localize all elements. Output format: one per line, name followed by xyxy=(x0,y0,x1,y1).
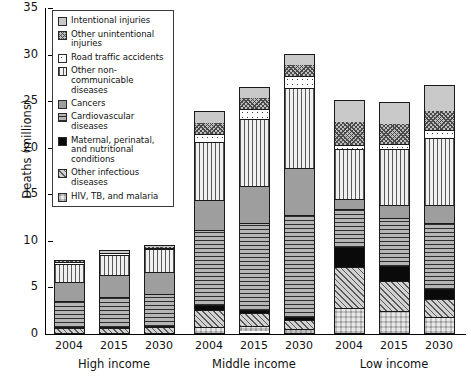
bar-segment-maternal xyxy=(425,290,454,300)
x-tick-label-year: 2015 xyxy=(372,339,416,352)
legend-item-label: Cancers xyxy=(71,99,105,109)
x-axis-group-label: Middle income xyxy=(179,357,329,371)
legend-item-cardio[interactable]: Cardiovascular diseases xyxy=(58,112,168,132)
x-tick-label-year: 2030 xyxy=(137,339,181,352)
x-tick-label-year: 2015 xyxy=(92,339,136,352)
legend-swatch-cardio-icon xyxy=(58,113,67,122)
bar-segment-otherinf xyxy=(240,314,269,327)
bar-segment-cancers xyxy=(335,200,364,210)
bar-segment-road xyxy=(195,135,224,142)
bar-segment-cardio xyxy=(380,219,409,267)
legend-swatch-road-icon xyxy=(58,54,67,63)
bar-segment-intentional xyxy=(285,55,314,65)
bar-segment-otherinf xyxy=(145,328,174,333)
bar-segment-cancers xyxy=(100,276,129,298)
y-tick-label: 0 xyxy=(16,328,38,340)
legend-swatch-noncomm-icon xyxy=(58,67,67,76)
legend-item-label: Other infectious diseases xyxy=(71,168,168,188)
bar-segment-otherinf xyxy=(55,329,84,333)
legend-item-label: HIV, TB, and malaria xyxy=(71,192,158,202)
bar-segment-noncomm xyxy=(335,150,364,200)
bar-segment-hiv xyxy=(240,327,269,331)
y-tick-label: 35 xyxy=(16,2,38,14)
bar-segment-noncomm xyxy=(285,89,314,169)
legend-item-noncomm[interactable]: Other non-communicable diseases xyxy=(58,66,168,95)
bar-segment-cancers xyxy=(145,273,174,295)
x-tick-label-year: 2004 xyxy=(327,339,371,352)
y-tick-label: 15 xyxy=(16,189,38,201)
chart-legend: Intentional injuriesOther unintentional … xyxy=(52,10,174,207)
bar-segment-road xyxy=(425,131,454,139)
bar-segment-cancers xyxy=(380,206,409,219)
legend-item-label: Maternal, perinatal, and nutritional con… xyxy=(71,136,168,165)
stacked-bar[interactable] xyxy=(379,102,410,334)
stacked-bar[interactable] xyxy=(334,100,365,334)
x-axis-group-label: Low income xyxy=(319,357,469,371)
bar-segment-otherinf xyxy=(285,321,314,330)
bar-segment-maternal xyxy=(335,248,364,268)
bar-segment-intentional xyxy=(195,112,224,122)
legend-item-label: Other non-communicable diseases xyxy=(71,66,168,95)
bar-segment-noncomm xyxy=(100,256,129,276)
bar-segment-otherunint xyxy=(425,111,454,130)
stacked-bar[interactable] xyxy=(99,250,130,334)
bar-segment-intentional xyxy=(425,86,454,111)
bar-segment-intentional xyxy=(380,103,409,124)
bar-segment-hiv xyxy=(335,309,364,333)
bar-segment-otherinf xyxy=(425,300,454,318)
bar-segment-cardio xyxy=(425,224,454,290)
bar-segment-intentional xyxy=(240,88,269,98)
y-tick-label: 5 xyxy=(16,282,38,294)
legend-swatch-otherinf-icon xyxy=(58,169,67,178)
bar-segment-maternal xyxy=(380,267,409,282)
bar-segment-hiv xyxy=(380,312,409,333)
bar-segment-cancers xyxy=(55,283,84,302)
x-axis-line xyxy=(45,334,466,335)
legend-item-label: Other unintentional injuries xyxy=(71,30,168,50)
bar-segment-cancers xyxy=(285,169,314,215)
bar-segment-hiv xyxy=(285,330,314,333)
bar-segment-otherunint xyxy=(335,122,364,145)
stacked-bar[interactable] xyxy=(144,245,175,334)
legend-item-maternal[interactable]: Maternal, perinatal, and nutritional con… xyxy=(58,136,168,165)
bar-segment-noncomm xyxy=(145,250,174,273)
legend-swatch-otherunint-icon xyxy=(58,31,67,40)
bar-segment-otherinf xyxy=(195,311,224,329)
stacked-bar[interactable] xyxy=(424,85,455,334)
bar-segment-cardio xyxy=(285,216,314,319)
bar-segment-cardio xyxy=(195,231,224,306)
bar-segment-cardio xyxy=(240,224,269,311)
bar-segment-noncomm xyxy=(240,120,269,187)
legend-item-label: Intentional injuries xyxy=(71,16,150,26)
bar-segment-hiv xyxy=(195,328,224,333)
legend-item-intentional[interactable]: Intentional injuries xyxy=(58,16,168,26)
legend-swatch-cancers-icon xyxy=(58,100,67,109)
x-tick-label-year: 2004 xyxy=(47,339,91,352)
legend-item-cancers[interactable]: Cancers xyxy=(58,99,168,109)
bar-group-low-income xyxy=(334,8,469,334)
stacked-bar[interactable] xyxy=(239,87,270,334)
x-tick-label-year: 2015 xyxy=(232,339,276,352)
y-tick-label: 20 xyxy=(16,142,38,154)
y-tick-label: 10 xyxy=(16,235,38,247)
legend-item-label: Road traffic accidents xyxy=(71,53,163,63)
stacked-bar[interactable] xyxy=(284,54,315,334)
bar-segment-cancers xyxy=(195,201,224,231)
stacked-bar[interactable] xyxy=(54,260,85,335)
legend-swatch-maternal-icon xyxy=(58,137,67,146)
y-tick-label: 30 xyxy=(16,49,38,61)
bar-segment-intentional xyxy=(335,101,364,122)
bar-segment-otherinf xyxy=(100,329,129,334)
bar-segment-noncomm xyxy=(380,150,409,206)
legend-item-hiv[interactable]: HIV, TB, and malaria xyxy=(58,192,168,202)
legend-item-otherunint[interactable]: Other unintentional injuries xyxy=(58,30,168,50)
legend-item-otherinf[interactable]: Other infectious diseases xyxy=(58,168,168,188)
bar-segment-cancers xyxy=(425,206,454,224)
stacked-bar[interactable] xyxy=(194,111,225,334)
legend-item-road[interactable]: Road traffic accidents xyxy=(58,53,168,63)
bar-segment-cancers xyxy=(240,187,269,224)
bar-segment-otherinf xyxy=(335,268,364,309)
bar-segment-cardio xyxy=(55,302,84,328)
bar-segment-cardio xyxy=(335,210,364,248)
legend-swatch-hiv-icon xyxy=(58,193,67,202)
